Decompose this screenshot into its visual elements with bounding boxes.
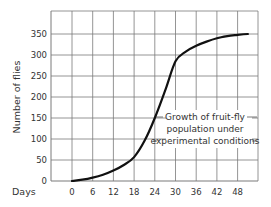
y-tick-label: 0 [42,176,47,186]
y-tick-label: 350 [31,29,47,39]
x-tick-label: 42 [211,187,222,197]
x-tick-label: 0 [69,187,74,197]
x-tick-label: 48 [232,187,243,197]
y-tick-label: 150 [31,113,47,123]
x-tick-label: 12 [108,187,119,197]
y-tick-label: 50 [36,155,47,165]
y-axis-ticks: 050100150200250300350 [31,29,47,186]
y-axis-label: Number of flies [11,61,22,134]
y-tick-label: 300 [31,50,47,60]
growth-chart: Growth of fruit-fly population under exp… [0,0,271,207]
x-tick-label: 18 [129,187,140,197]
annotation: Growth of fruit-fly population under exp… [151,112,260,146]
annotation-line-2: population under [166,124,243,134]
x-axis-label: Days [12,186,36,197]
y-tick-label: 100 [31,134,47,144]
x-tick-label: 36 [191,187,202,197]
x-tick-label: 6 [90,187,95,197]
y-tick-label: 250 [31,71,47,81]
growth-curve [72,34,248,181]
annotation-line-3: experimental conditions [151,136,260,146]
x-tick-label: 30 [170,187,181,197]
y-tick-label: 200 [31,92,47,102]
x-tick-label: 24 [149,187,160,197]
annotation-line-1: Growth of fruit-fly [165,112,245,122]
x-axis-ticks: 0612182430364248 [69,187,243,197]
